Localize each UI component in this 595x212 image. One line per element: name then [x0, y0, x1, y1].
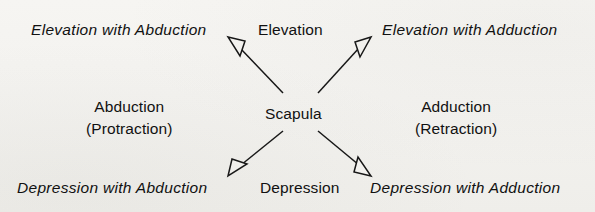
label-abduction: Abduction: [86, 96, 173, 118]
arrow-up-right: [318, 37, 371, 93]
label-adduction-retraction: Adduction (Retraction): [415, 96, 497, 140]
label-elevation: Elevation: [258, 20, 323, 40]
label-adduction: Adduction: [415, 96, 497, 118]
label-protraction: (Protraction): [86, 118, 173, 140]
label-scapula-center: Scapula: [265, 104, 322, 124]
label-retraction: (Retraction): [415, 118, 497, 140]
label-depression-with-adduction: Depression with Adduction: [370, 178, 560, 198]
label-depression-with-abduction: Depression with Abduction: [17, 178, 207, 198]
arrow-up-left: [228, 37, 283, 93]
arrow-down-right: [318, 131, 371, 176]
label-elevation-with-adduction: Elevation with Adduction: [382, 20, 558, 40]
label-abduction-protraction: Abduction (Protraction): [86, 96, 173, 140]
arrow-down-left: [228, 131, 283, 176]
scapula-movement-diagram: Elevation with Abduction Elevation Eleva…: [0, 0, 595, 212]
label-elevation-with-abduction: Elevation with Abduction: [31, 20, 207, 40]
label-depression: Depression: [260, 178, 339, 198]
